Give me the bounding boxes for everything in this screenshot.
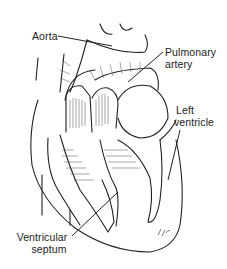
aorta-leader-line [58, 36, 112, 46]
label-ventricular-septum: Ventricular septum [12, 231, 72, 255]
ventricular-septum-leader-line [72, 192, 118, 236]
vessel-stub-left [100, 24, 112, 34]
artist-signature [158, 229, 170, 236]
pulmonary-artery-line2: artery [165, 58, 216, 70]
aorta-text: Aorta [32, 30, 58, 42]
ventricular-septum-line2: septum [12, 243, 72, 255]
pulmonary-artery-line1: Pulmonary [165, 46, 216, 58]
label-pulmonary-artery: Pulmonary artery [165, 46, 216, 70]
label-aorta: Aorta [32, 30, 58, 42]
vessel-stub-right [120, 24, 132, 30]
heart-diagram: Aorta Pulmonary artery Left ventricle Ve… [0, 0, 227, 269]
left-ventricle-line1: Left [174, 104, 214, 116]
left-ventricle-leader-line [168, 130, 180, 180]
left-ventricle-line2: ventricle [174, 116, 214, 128]
ventricular-septum-line1: Ventricular [12, 231, 72, 243]
label-left-ventricle: Left ventricle [174, 104, 214, 128]
